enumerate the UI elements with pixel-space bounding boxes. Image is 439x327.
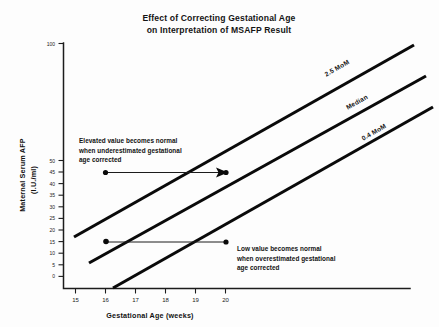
- x-tick-label-16: 16: [102, 297, 109, 303]
- annotation-low-line-1: Low value becomes normal: [237, 245, 322, 252]
- y-tick-label-20: 20: [49, 227, 55, 233]
- annotation-elevated-line-1: Elevated value becomes normal: [79, 137, 178, 144]
- data-point-low-start: [103, 239, 109, 245]
- y-tick-label-15: 15: [49, 239, 55, 245]
- elevated-correction-arrow: [103, 168, 229, 178]
- y-tick-label-0: 0: [52, 273, 55, 279]
- chart-figure: Effect of Correcting Gestational Age on …: [0, 0, 439, 327]
- y-tick-label-30: 30: [49, 204, 55, 210]
- y-tick-label-25: 25: [49, 215, 55, 221]
- y-tick-label-100: 100: [47, 41, 56, 47]
- x-tick-label-19: 19: [192, 297, 199, 303]
- x-tick-label-15: 15: [72, 297, 79, 303]
- y-axis-title: Maternal Serum AFP: [18, 138, 27, 212]
- annotation-low-note: Low value becomes normal when overestima…: [236, 245, 336, 272]
- series-label-median: Median: [345, 93, 369, 111]
- y-tick-label-35: 35: [49, 192, 55, 198]
- series-label-0-4-mom: 0.4 MoM: [360, 122, 387, 141]
- annotation-elevated-note: Elevated value becomes normal when under…: [78, 137, 182, 164]
- y-tick-label-45: 45: [49, 169, 55, 175]
- data-point-elevated-start: [103, 170, 108, 175]
- x-tick-label-18: 18: [162, 297, 169, 303]
- series-label-2-5-mom: 2.5 MoM: [323, 58, 350, 77]
- data-point-elevated-end: [223, 170, 228, 175]
- y-axis-tick-labels: 100 50 45 40 35 30 25 20 15 10 5 0: [47, 41, 56, 280]
- y-tick-label-5: 5: [52, 262, 55, 268]
- annotation-low-line-3: age corrected: [237, 264, 280, 272]
- annotation-low-line-2: when overestimated gestational: [236, 255, 336, 263]
- x-axis-tick-labels: 15 16 17 18 19 20: [72, 297, 229, 303]
- chart-title-line-1: Effect of Correcting Gestational Age: [142, 13, 295, 23]
- annotation-elevated-line-2: when underestimated gestational: [78, 147, 182, 155]
- y-tick-label-50: 50: [49, 158, 55, 164]
- x-tick-label-17: 17: [132, 297, 139, 303]
- data-point-low-end: [223, 239, 228, 244]
- annotation-elevated-line-3: age corrected: [79, 156, 122, 164]
- y-axis-units: (I.U./ml): [29, 166, 38, 195]
- y-tick-label-40: 40: [49, 181, 55, 187]
- x-tick-label-20: 20: [222, 297, 229, 303]
- y-tick-label-10: 10: [49, 250, 55, 256]
- chart-title-line-2: on Interpretation of MSAFP Result: [147, 25, 292, 35]
- x-axis-title: Gestational Age (weeks): [106, 311, 194, 320]
- chart-canvas: Effect of Correcting Gestational Age on …: [0, 0, 439, 327]
- series-line-median: [89, 76, 426, 263]
